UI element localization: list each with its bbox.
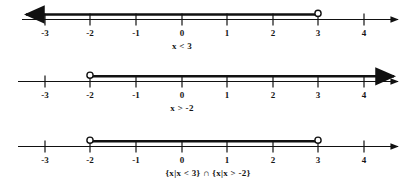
tick-label-1-1: 1 bbox=[217, 28, 237, 38]
number-line-2 bbox=[18, 72, 398, 87]
caption-line-2: x > -2 bbox=[170, 103, 193, 113]
tick-label-1--2: -2 bbox=[80, 28, 100, 38]
tick-label-3-0: 0 bbox=[172, 155, 192, 165]
tick-label-3-4: 4 bbox=[354, 155, 374, 165]
open-circle-3-right bbox=[315, 137, 321, 143]
tick-label-3-3: 3 bbox=[308, 155, 328, 165]
tick-label-1-4: 4 bbox=[354, 28, 374, 38]
tick-label-3--2: -2 bbox=[80, 155, 100, 165]
tick-label-1-2: 2 bbox=[263, 28, 283, 38]
number-line-figure: -3 -2 -1 0 1 2 3 4 x < 3 -3 -2 -1 0 1 2 … bbox=[0, 0, 416, 188]
tick-label-2-1: 1 bbox=[217, 90, 237, 100]
caption-line-3: {x|x < 3} ∩ {x|x > -2} bbox=[166, 168, 251, 178]
number-line-3 bbox=[18, 137, 398, 152]
tick-label-2-3: 3 bbox=[308, 90, 328, 100]
tick-label-2--1: -1 bbox=[126, 90, 146, 100]
tick-label-1--1: -1 bbox=[126, 28, 146, 38]
tick-label-2-0: 0 bbox=[172, 90, 192, 100]
tick-label-2-2: 2 bbox=[263, 90, 283, 100]
caption-line-1: x < 3 bbox=[172, 41, 192, 51]
open-circle-2 bbox=[87, 72, 93, 78]
tick-label-2--2: -2 bbox=[80, 90, 100, 100]
tick-label-1--3: -3 bbox=[35, 28, 55, 38]
tick-label-3-1: 1 bbox=[217, 155, 237, 165]
open-circle-3-left bbox=[87, 137, 93, 143]
tick-label-1-3: 3 bbox=[308, 28, 328, 38]
tick-label-3--1: -1 bbox=[126, 155, 146, 165]
open-circle-1 bbox=[315, 10, 321, 16]
tick-label-2-4: 4 bbox=[354, 90, 374, 100]
tick-label-3--3: -3 bbox=[35, 155, 55, 165]
tick-label-1-0: 0 bbox=[172, 28, 192, 38]
tick-label-2--3: -3 bbox=[35, 90, 55, 100]
number-line-1 bbox=[22, 10, 398, 25]
tick-label-3-2: 2 bbox=[263, 155, 283, 165]
